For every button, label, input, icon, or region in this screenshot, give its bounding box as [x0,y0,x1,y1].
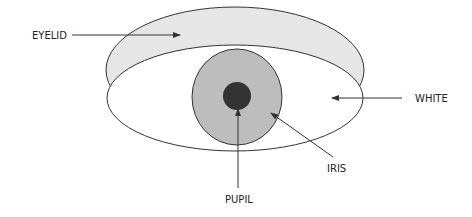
eye-diagram: EYELID WHITE IRIS PUPIL [0,0,472,217]
pupil-shape [223,82,251,110]
eyelid-label: EYELID [32,30,67,41]
white-label: WHITE [415,93,448,104]
iris-label: IRIS [327,163,346,174]
pupil-label: PUPIL [225,194,253,205]
